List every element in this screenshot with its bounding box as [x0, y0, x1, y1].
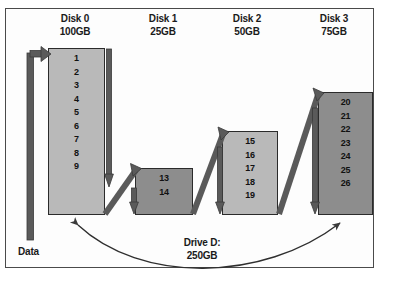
disk-name-3: Disk 3 — [299, 12, 369, 25]
block-number: 4 — [49, 93, 104, 107]
block-number: 23 — [319, 137, 372, 151]
block-number: 18 — [223, 176, 277, 190]
block-number: 26 — [319, 177, 372, 191]
block-number: 13 — [136, 172, 192, 186]
disk-block-box-1: 13 14 — [135, 168, 193, 215]
spanned-volume-diagram: Disk 0 100GB Disk 1 25GB Disk 2 50GB Dis… — [0, 0, 403, 284]
block-number: 17 — [223, 162, 277, 176]
block-number: 9 — [49, 160, 104, 174]
disk-header-2: Disk 2 50GB — [212, 12, 282, 38]
block-number: 20 — [319, 96, 372, 110]
volume-size: 250GB — [152, 249, 252, 262]
disk-block-box-2: 15 16 17 18 19 — [222, 131, 278, 215]
block-number: 6 — [49, 120, 104, 134]
disk-size-2: 50GB — [212, 25, 282, 38]
block-number: 19 — [223, 189, 277, 203]
block-number: 3 — [49, 79, 104, 93]
block-number: 1 — [49, 52, 104, 66]
disk-name-0: Disk 0 — [40, 12, 110, 25]
disk-size-1: 25GB — [128, 25, 198, 38]
disk-block-box-3: 20 21 22 23 24 25 26 — [318, 92, 373, 215]
block-number: 14 — [136, 186, 192, 200]
block-number: 15 — [223, 135, 277, 149]
disk-size-0: 100GB — [40, 25, 110, 38]
disk-block-box-0: 1 2 3 4 5 6 7 8 9 — [48, 48, 105, 215]
block-number: 2 — [49, 66, 104, 80]
disk-name-2: Disk 2 — [212, 12, 282, 25]
block-number: 21 — [319, 110, 372, 124]
disk-name-1: Disk 1 — [128, 12, 198, 25]
block-number: 5 — [49, 106, 104, 120]
block-number: 16 — [223, 149, 277, 163]
data-source-label: Data — [18, 246, 39, 257]
volume-name: Drive D: — [152, 236, 252, 249]
block-number: 22 — [319, 123, 372, 137]
block-number: 24 — [319, 150, 372, 164]
volume-label: Drive D: 250GB — [152, 236, 252, 262]
disk-header-0: Disk 0 100GB — [40, 12, 110, 38]
block-number: 8 — [49, 147, 104, 161]
block-number: 7 — [49, 133, 104, 147]
disk-header-1: Disk 1 25GB — [128, 12, 198, 38]
disk-size-3: 75GB — [299, 25, 369, 38]
disk-header-3: Disk 3 75GB — [299, 12, 369, 38]
block-number: 25 — [319, 164, 372, 178]
